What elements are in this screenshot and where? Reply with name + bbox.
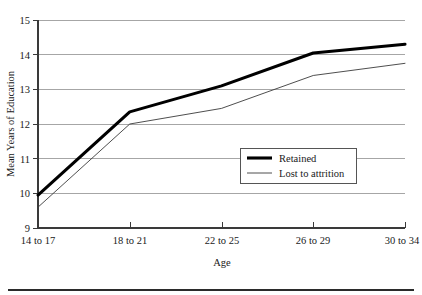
chart-figure: 15 14 13 12 11 10 9 14 to 17 18 to 21 22… [0,0,422,295]
y-tick-labels: 15 14 13 12 11 10 9 [20,15,31,234]
x-tick-labels: 14 to 17 18 to 21 22 to 25 26 to 29 30 t… [21,235,420,246]
legend-label-lost-to-attrition: Lost to attrition [279,168,345,179]
x-axis-title: Age [213,257,231,268]
x-tick-label: 14 to 17 [21,235,55,246]
y-tickmarks [33,20,38,228]
chart-legend: Retained Lost to attrition [240,148,356,183]
y-tick-label: 14 [20,50,31,61]
x-tick-label: 26 to 29 [296,235,330,246]
y-tick-label: 11 [20,154,30,165]
y-tick-label: 13 [20,84,31,95]
y-tick-label: 9 [25,223,30,234]
x-tickmarks [130,222,405,228]
y-tick-label: 10 [20,188,31,199]
y-axis-title: Mean Years of Education [5,70,16,177]
x-tick-label: 18 to 21 [113,235,147,246]
legend-label-retained: Retained [279,153,317,164]
y-tick-label: 15 [20,15,31,26]
line-chart: 15 14 13 12 11 10 9 14 to 17 18 to 21 22… [0,0,422,295]
x-tick-label: 30 to 34 [385,235,420,246]
x-tick-label: 22 to 25 [205,235,239,246]
y-tick-label: 12 [20,119,31,130]
